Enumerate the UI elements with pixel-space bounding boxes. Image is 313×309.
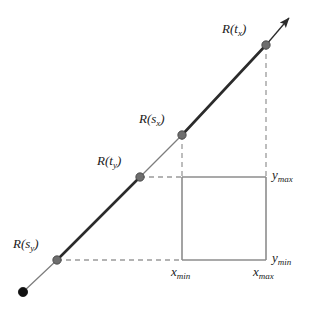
label-R-t-y-subscript: y xyxy=(113,160,117,170)
label-R-s-y-close: ) xyxy=(34,236,38,251)
label-R-s-x: R(sx) xyxy=(139,112,165,125)
label-y-min: ymin xyxy=(272,251,291,264)
label-R-t-y-close: ) xyxy=(117,153,121,168)
bounding-box xyxy=(182,177,266,260)
point-marker-Rtx xyxy=(262,41,270,49)
ray-segment-Rsx-to-Rtx xyxy=(182,45,266,135)
label-y-max-base: y xyxy=(272,167,278,182)
ray-segment-Rsy-to-Rty xyxy=(57,177,140,260)
label-R-t-x-close: ) xyxy=(242,21,246,36)
ray-segment-Rty-to-Rsx xyxy=(140,135,182,177)
point-marker-Rsx xyxy=(178,131,186,139)
label-x-min: xmin xyxy=(171,265,190,278)
label-x-max-subscript: max xyxy=(259,271,274,281)
diagram-canvas xyxy=(0,0,313,309)
label-x-max: xmax xyxy=(253,265,274,278)
label-R-s-y-subscript: y xyxy=(30,243,34,253)
label-R-s-y: R(sy) xyxy=(13,237,39,250)
label-R-t-x-subscript: x xyxy=(238,28,242,38)
ray-thick-segments xyxy=(57,45,266,260)
point-marker-Rsy xyxy=(53,256,61,264)
label-R-t-x-base: R(t xyxy=(222,21,238,36)
point-marker-ray-origin xyxy=(18,287,27,296)
label-y-max-subscript: max xyxy=(278,174,293,184)
label-y-min-subscript: min xyxy=(278,257,292,267)
label-R-t-x: R(tx) xyxy=(222,22,246,35)
label-x-max-base: x xyxy=(253,264,259,279)
label-R-s-y-base: R(s xyxy=(13,236,30,251)
label-R-t-y: R(ty) xyxy=(97,154,121,167)
ray-segment-origin-to-Rsy xyxy=(23,260,57,292)
label-R-s-x-subscript: x xyxy=(156,118,160,128)
label-y-max: ymax xyxy=(272,168,293,181)
label-R-s-x-base: R(s xyxy=(139,111,156,126)
ray-box-intersection-diagram: R(tx) R(sx) R(ty) R(sy) ymax ymin xmin x… xyxy=(0,0,313,309)
point-marker-Rty xyxy=(136,173,144,181)
label-R-t-y-base: R(t xyxy=(97,153,113,168)
label-R-s-x-close: ) xyxy=(160,111,164,126)
ray-segment-Rtx-to-arrow xyxy=(266,18,289,45)
label-y-min-base: y xyxy=(272,250,278,265)
label-x-min-base: x xyxy=(171,264,177,279)
label-x-min-subscript: min xyxy=(177,271,191,281)
